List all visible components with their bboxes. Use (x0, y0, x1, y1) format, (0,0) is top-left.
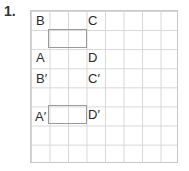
question-number: 1. (4, 3, 16, 19)
label-c-prime: C′ (88, 72, 100, 85)
label-a: A (36, 51, 45, 64)
label-c: C (88, 14, 97, 27)
label-b: B (36, 14, 45, 27)
label-d-prime: D′ (88, 108, 100, 121)
rectangle-abcd (48, 29, 87, 48)
rectangle-abcd-prime (48, 105, 87, 124)
label-d: D (88, 51, 97, 64)
label-a-prime: A′ (35, 110, 46, 123)
label-b-prime: B′ (36, 72, 47, 85)
